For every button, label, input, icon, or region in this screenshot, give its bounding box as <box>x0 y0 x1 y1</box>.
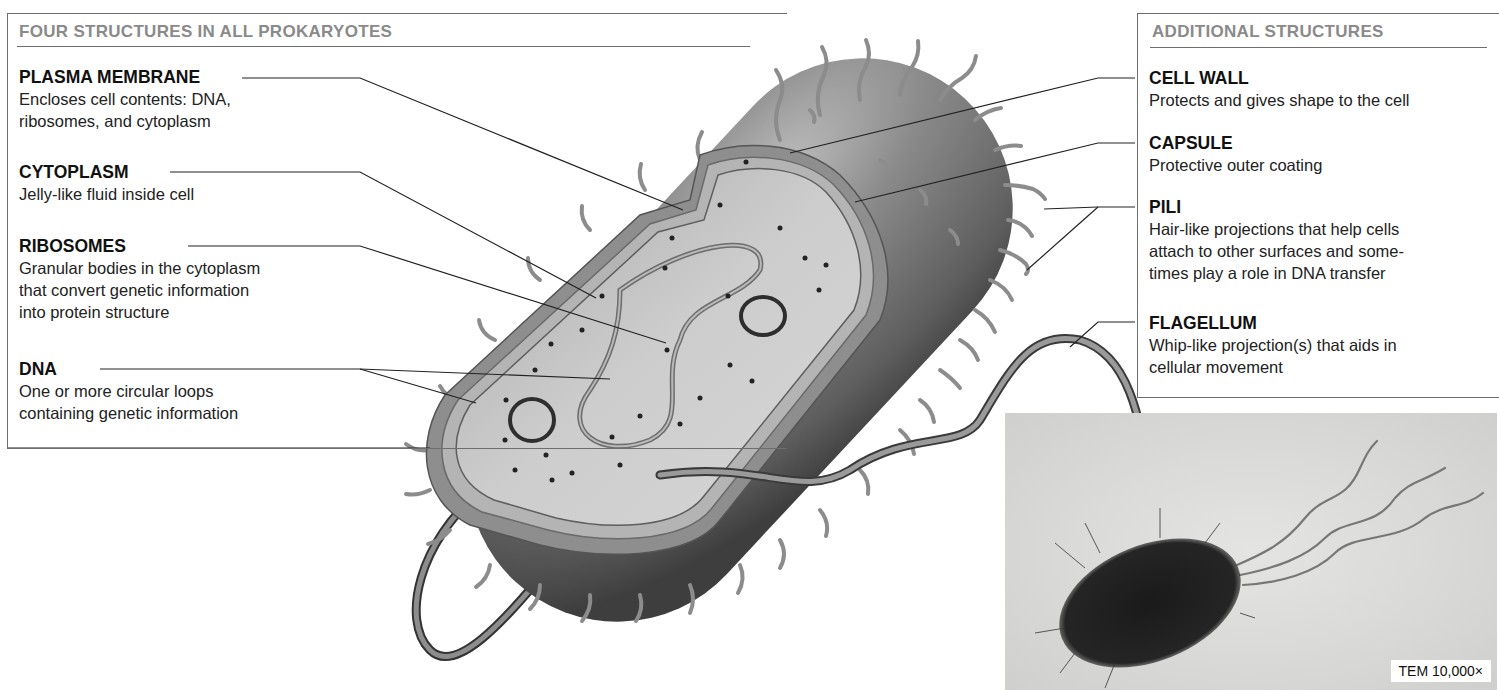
label-name: CAPSULE <box>1149 132 1322 154</box>
label-desc-line: Protects and gives shape to the cell <box>1149 89 1410 111</box>
label-name: DNA <box>19 358 238 380</box>
label-desc-line: that convert genetic information <box>19 279 260 301</box>
label-name: PILI <box>1149 196 1404 218</box>
magnification-label: TEM 10,000× <box>1391 660 1491 682</box>
label-name: PLASMA MEMBRANE <box>19 66 231 88</box>
label-desc-line: containing genetic information <box>19 402 238 424</box>
label-plasma-membrane: PLASMA MEMBRANE Encloses cell contents: … <box>19 66 231 132</box>
label-name: CYTOPLASM <box>19 161 194 183</box>
label-desc-line: Protective outer coating <box>1149 154 1322 176</box>
label-name: RIBOSOMES <box>19 235 260 257</box>
label-desc-line: times play a role in DNA transfer <box>1149 262 1404 284</box>
label-capsule: CAPSULE Protective outer coating <box>1149 132 1322 176</box>
label-desc-line: Hair-like projections that help cells <box>1149 218 1404 240</box>
right-panel-title: ADDITIONAL STRUCTURES <box>1152 22 1384 42</box>
label-desc-line: into protein structure <box>19 301 260 323</box>
label-name: FLAGELLUM <box>1149 312 1397 334</box>
tem-micrograph: TEM 10,000× <box>1005 413 1497 690</box>
label-desc-line: ribosomes, and cytoplasm <box>19 110 231 132</box>
label-name: CELL WALL <box>1149 67 1410 89</box>
label-ribosomes: RIBOSOMES Granular bodies in the cytopla… <box>19 235 260 323</box>
label-desc-line: Granular bodies in the cytoplasm <box>19 257 260 279</box>
left-panel-title: FOUR STRUCTURES IN ALL PROKARYOTES <box>19 22 392 42</box>
label-desc-line: cellular movement <box>1149 356 1397 378</box>
label-desc-line: Jelly-like fluid inside cell <box>19 183 194 205</box>
label-cell-wall: CELL WALL Protects and gives shape to th… <box>1149 67 1410 111</box>
label-cytoplasm: CYTOPLASM Jelly-like fluid inside cell <box>19 161 194 205</box>
label-desc-line: Whip-like projection(s) that aids in <box>1149 334 1397 356</box>
left-panel-title-rule <box>17 46 750 47</box>
label-desc-line: One or more circular loops <box>19 380 238 402</box>
label-pili: PILI Hair-like projections that help cel… <box>1149 196 1404 284</box>
label-desc-line: Encloses cell contents: DNA, <box>19 88 231 110</box>
micrograph-bacterium <box>1005 413 1497 690</box>
label-flagellum: FLAGELLUM Whip-like projection(s) that a… <box>1149 312 1397 378</box>
right-panel-title-rule <box>1150 47 1487 48</box>
label-dna: DNA One or more circular loops containin… <box>19 358 238 424</box>
label-desc-line: attach to other surfaces and some- <box>1149 240 1404 262</box>
